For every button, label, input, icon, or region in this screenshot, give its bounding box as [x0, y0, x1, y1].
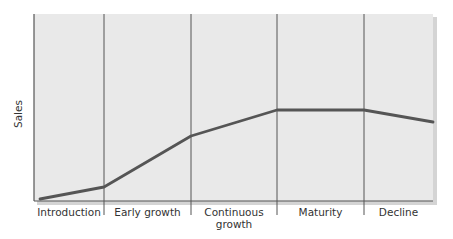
stage-label-introduction: Introduction [34, 206, 104, 218]
stage-label-continuous-growth: Continuous growth [191, 206, 277, 230]
product-life-cycle-chart: Sales Introduction Early growth Continuo… [0, 0, 453, 239]
stage-label-maturity: Maturity [277, 206, 364, 218]
stage-label-continuous-line1: Continuous [191, 206, 277, 218]
stage-label-continuous-line2: growth [191, 218, 277, 230]
y-axis-label: Sales [12, 94, 24, 134]
stage-label-decline: Decline [364, 206, 433, 218]
stage-label-early-growth: Early growth [104, 206, 191, 218]
plot-area [34, 14, 433, 201]
chart-canvas [0, 0, 453, 239]
